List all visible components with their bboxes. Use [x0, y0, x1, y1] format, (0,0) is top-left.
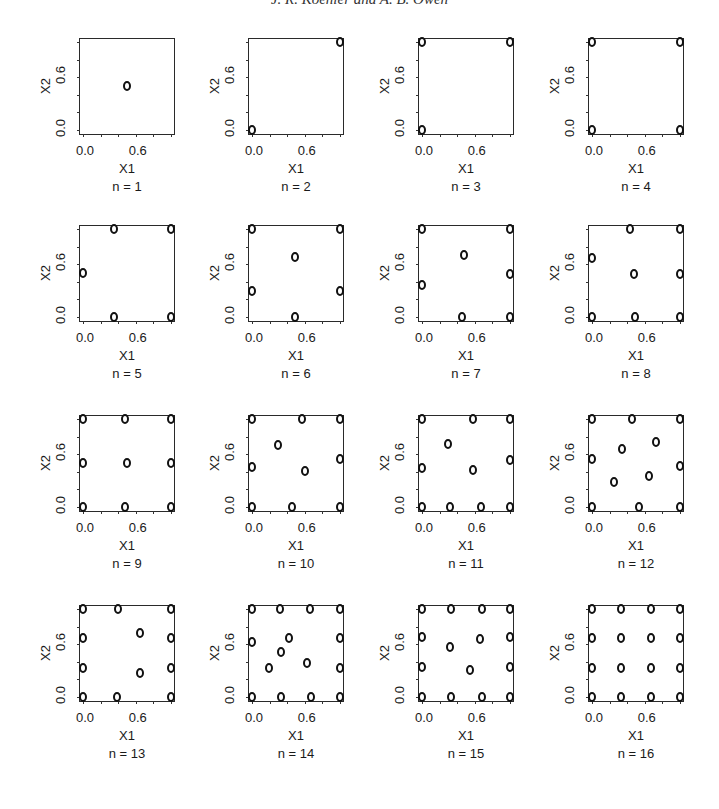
y-axis-tick: [586, 472, 589, 473]
y-axis-tick: [586, 489, 589, 490]
panel-sample-size-label: n = 7: [451, 366, 480, 381]
y-axis-tick: [77, 130, 80, 131]
plot-area: [79, 605, 175, 702]
x-axis-tick: [270, 701, 271, 704]
y-axis-tick: [416, 247, 419, 248]
data-point-circle-marker: [610, 477, 618, 487]
x-axis-tick: [457, 701, 458, 704]
y-axis-tick: [416, 627, 419, 628]
x-axis-tick: [136, 134, 137, 137]
x-axis-tick: [287, 134, 288, 137]
data-point-circle-marker: [167, 312, 175, 322]
data-point-circle-marker: [458, 312, 466, 322]
data-point-circle-marker: [676, 125, 684, 135]
data-point-circle-marker: [291, 312, 299, 322]
data-point-circle-marker: [418, 37, 426, 47]
y-axis-tick: [77, 644, 80, 645]
data-point-circle-marker: [469, 465, 477, 475]
data-point-circle-marker: [626, 224, 634, 234]
data-point-circle-marker: [79, 604, 87, 614]
data-point-circle-marker: [248, 224, 256, 234]
data-point-circle-marker: [676, 224, 684, 234]
y-axis-tick: [416, 77, 419, 78]
y-axis-tick: [246, 437, 249, 438]
data-point-circle-marker: [167, 414, 175, 424]
data-point-circle-marker: [444, 439, 452, 449]
data-point-circle-marker: [588, 312, 596, 322]
data-point-circle-marker: [288, 502, 296, 512]
data-point-circle-marker: [588, 692, 596, 702]
data-point-circle-marker: [418, 280, 426, 290]
data-point-circle-marker: [336, 37, 344, 47]
y-axis-tick: [246, 317, 249, 318]
data-point-circle-marker: [123, 458, 131, 468]
scatter-panel: 0.00.60.00.6X1X2n = 12: [588, 415, 719, 605]
x-axis-label: X1: [288, 538, 304, 553]
x-axis-tick: [136, 321, 137, 324]
y-axis-tick: [77, 77, 80, 78]
y-axis-tick: [586, 437, 589, 438]
panel-sample-size-label: n = 1: [112, 179, 141, 194]
y-axis-tick: [77, 437, 80, 438]
y-axis-label: X2: [38, 265, 53, 281]
y-axis-tick: [77, 299, 80, 300]
data-point-circle-marker: [446, 502, 454, 512]
y-axis-tick: [586, 112, 589, 113]
y-axis-tick: [77, 679, 80, 680]
data-point-circle-marker: [676, 37, 684, 47]
y-tick-label: 0.6: [53, 66, 68, 84]
data-point-circle-marker: [285, 633, 293, 643]
y-axis-tick: [77, 247, 80, 248]
data-point-circle-marker: [652, 437, 660, 447]
x-axis-tick: [153, 321, 154, 324]
x-tick-label: 0.6: [468, 143, 486, 158]
data-point-circle-marker: [477, 502, 485, 512]
x-axis-tick: [475, 321, 476, 324]
data-point-circle-marker: [418, 414, 426, 424]
x-tick-label: 0.0: [415, 520, 433, 535]
data-point-circle-marker: [478, 604, 486, 614]
data-point-circle-marker: [248, 414, 256, 424]
y-axis-label: X2: [377, 455, 392, 471]
data-point-circle-marker: [506, 632, 514, 642]
x-tick-label: 0.6: [129, 520, 147, 535]
x-tick-label: 0.6: [638, 520, 656, 535]
x-axis-tick: [645, 511, 646, 514]
data-point-circle-marker: [114, 604, 122, 614]
plot-area: [418, 415, 514, 512]
scatter-panel: 0.00.60.00.6X1X2n = 16: [588, 605, 719, 795]
x-axis-tick: [492, 321, 493, 324]
data-point-circle-marker: [647, 633, 655, 643]
y-tick-label: 0.6: [562, 633, 577, 651]
y-axis-tick: [586, 627, 589, 628]
panel-sample-size-label: n = 8: [621, 366, 650, 381]
data-point-circle-marker: [447, 692, 455, 702]
plot-area: [418, 38, 514, 135]
y-axis-tick: [246, 247, 249, 248]
data-point-circle-marker: [276, 604, 284, 614]
y-axis-tick: [586, 60, 589, 61]
x-axis-tick: [171, 134, 172, 137]
x-axis-tick: [101, 134, 102, 137]
y-axis-tick: [586, 644, 589, 645]
y-axis-tick: [416, 679, 419, 680]
x-axis-label: X1: [458, 728, 474, 743]
x-axis-tick: [662, 701, 663, 704]
data-point-circle-marker: [588, 454, 596, 464]
x-axis-label: X1: [458, 538, 474, 553]
data-point-circle-marker: [617, 633, 625, 643]
y-axis-tick: [77, 662, 80, 663]
data-point-circle-marker: [291, 252, 299, 262]
y-tick-label: 0.0: [562, 119, 577, 137]
y-tick-label: 0.6: [53, 253, 68, 271]
y-axis-tick: [77, 60, 80, 61]
x-axis-tick: [627, 321, 628, 324]
data-point-circle-marker: [336, 286, 344, 296]
x-tick-label: 0.6: [468, 330, 486, 345]
x-axis-tick: [136, 701, 137, 704]
x-tick-label: 0.0: [245, 143, 263, 158]
data-point-circle-marker: [248, 286, 256, 296]
x-axis-label: X1: [288, 161, 304, 176]
x-axis-tick: [287, 321, 288, 324]
y-tick-label: 0.6: [53, 443, 68, 461]
